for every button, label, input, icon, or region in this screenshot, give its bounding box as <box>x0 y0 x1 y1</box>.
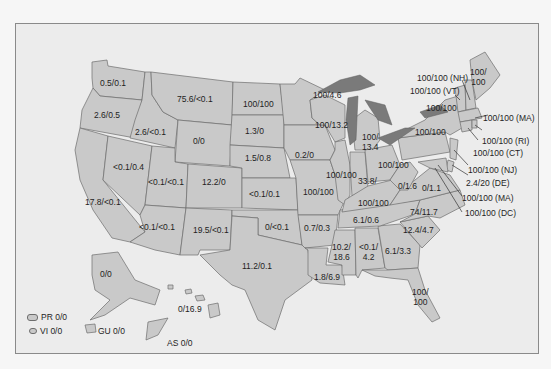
label-mo: 100/100 <box>303 187 334 197</box>
pr-shape-icon <box>27 314 38 321</box>
label-al-1: <0.1/ <box>359 242 378 252</box>
label-nc: 74/11.7 <box>410 207 438 217</box>
territory-gu <box>85 324 96 333</box>
label-ut: <0.1/<0.1 <box>148 177 184 187</box>
label-wi: 100/13.2 <box>315 120 348 130</box>
label-ca: 17.8/<0.1 <box>85 197 121 207</box>
label-ny: 100/100 <box>426 103 457 113</box>
label-ok: 0/<0.1 <box>265 222 289 232</box>
state-ri <box>472 120 477 128</box>
label-nd: 100/100 <box>243 99 274 109</box>
callout-nj: 100/100 (NJ) <box>468 165 517 175</box>
label-oh: 100/100 <box>378 160 409 170</box>
callout-md: 100/100 (MA) <box>462 193 514 203</box>
state-nj <box>450 138 458 160</box>
label-tn: 6.1/0.6 <box>353 215 379 225</box>
vi-shape-icon <box>29 328 37 334</box>
territory-pr-label: PR 0/0 <box>41 312 67 322</box>
label-sc: 12.4/4.7 <box>403 225 434 235</box>
label-ar: 0.7/0.3 <box>304 223 330 233</box>
callout-vt: 100/100 (VT) <box>410 86 460 96</box>
label-me: 100/100 <box>470 67 487 87</box>
label-me-2: 100 <box>471 77 485 87</box>
territory-as <box>146 318 168 340</box>
callout-dc: 100/100 (DC) <box>465 208 516 218</box>
label-sd: 1.3/0 <box>245 126 264 136</box>
label-ms: 10.2/18.6 <box>332 242 351 262</box>
label-mi-1: 100/ <box>362 132 379 142</box>
state-hi-maui <box>195 295 205 301</box>
territory-as-label: AS 0/0 <box>167 338 193 348</box>
label-ms-2: 18.6 <box>333 252 350 262</box>
label-tx: 11.2/0.1 <box>242 261 272 271</box>
label-wa: 0.5/0.1 <box>100 78 126 88</box>
label-va: 0/1.1 <box>422 183 441 193</box>
label-il: 100/100 <box>326 170 357 180</box>
state-hi-big <box>208 303 220 318</box>
territory-pr: PR 0/0 <box>27 312 67 322</box>
territory-vi: VI 0/0 <box>29 326 62 336</box>
label-fl-2: 100 <box>413 297 427 307</box>
label-ks: <0.1/0.1 <box>249 189 280 199</box>
callout-nh: 100/100 (NH) <box>417 73 468 83</box>
label-wv: 0/1.6 <box>398 181 417 191</box>
state-hi-oahu <box>185 289 192 294</box>
label-mi-2: 13.4 <box>362 142 379 152</box>
state-ak <box>90 252 160 320</box>
callout-de: 2.4/20 (DE) <box>466 178 509 188</box>
state-hi-kauai <box>168 285 173 289</box>
label-al-2: 4.2 <box>363 252 375 262</box>
label-ms-1: 10.2/ <box>332 242 351 252</box>
label-in: 33.8/ <box>358 176 377 186</box>
territory-vi-label: VI 0/0 <box>40 326 62 336</box>
label-id: 2.6/<0.1 <box>135 127 166 137</box>
label-fl: 100/100 <box>412 287 429 307</box>
label-fl-1: 100/ <box>412 287 429 297</box>
label-nv: <0.1/0.4 <box>113 162 144 172</box>
label-ky: 100/100 <box>358 198 389 208</box>
callout-ri: 100/100 (RI) <box>482 136 529 146</box>
label-co: 12.2/0 <box>202 177 226 187</box>
label-ak: 0/0 <box>100 269 112 279</box>
label-pa: 100/100 <box>415 127 446 137</box>
label-mi: 100/13.4 <box>362 132 379 152</box>
territory-gu-label: GU 0/0 <box>98 326 125 336</box>
label-la: 1.8/6.9 <box>314 272 340 282</box>
label-az: <0.1/<0.1 <box>139 222 175 232</box>
label-al: <0.1/4.2 <box>359 242 378 262</box>
label-ne: 1.5/0.8 <box>245 153 271 163</box>
label-mn: 100/4.6 <box>313 90 341 100</box>
label-ia: 0.2/0 <box>295 150 314 160</box>
label-me-1: 100/ <box>470 67 487 77</box>
label-or: 2.6/0.5 <box>94 110 120 120</box>
callout-ct: 100/100 (CT) <box>473 148 523 158</box>
label-wy: 0/0 <box>193 136 205 146</box>
label-ga: 6.1/3.3 <box>385 246 411 256</box>
label-hi: 0/16.9 <box>178 304 202 314</box>
label-mt: 75.6/<0.1 <box>177 94 213 104</box>
label-nm: 19.5/<0.1 <box>193 225 229 235</box>
callout-ma: 100/100 (MA) <box>483 113 535 123</box>
